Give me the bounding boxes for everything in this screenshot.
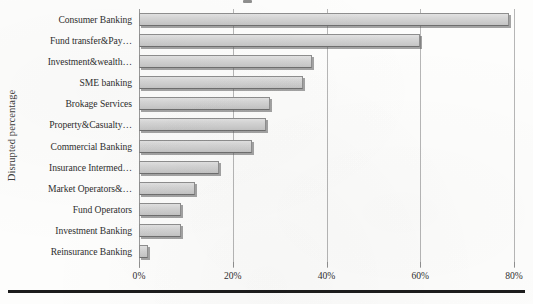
category-label: Investment Banking [55, 225, 132, 236]
category-label: Fund Operators [73, 204, 132, 215]
category-label: Commercial Banking [51, 141, 132, 152]
category-label: Fund transfer&Pay… [50, 35, 132, 46]
bar-series [139, 9, 514, 262]
bar-row [139, 241, 514, 262]
bar-row [139, 220, 514, 241]
bar [139, 13, 509, 26]
category-label-row: Property&Casualty… [22, 114, 136, 135]
category-label-row: Fund transfer&Pay… [22, 30, 136, 51]
bar-row [139, 9, 514, 30]
y-axis-title-text: Disrupted percentage [7, 89, 18, 181]
clipped-title-mark [243, 0, 252, 3]
x-axis-tick-labels: 0%20%40%60%80% [139, 270, 514, 284]
x-tick-label: 20% [224, 270, 242, 281]
x-axis-tickmarks [139, 262, 514, 270]
bar [139, 245, 148, 258]
bar [139, 34, 420, 47]
category-label: SME banking [80, 77, 132, 88]
x-tick-label: 40% [318, 270, 336, 281]
chart-figure: Disrupted percentage Consumer BankingFun… [0, 0, 533, 304]
category-label: Consumer Banking [58, 14, 132, 25]
y-axis-category-labels: Consumer BankingFund transfer&Pay…Invest… [22, 9, 136, 262]
bar [139, 224, 181, 237]
category-label-row: Fund Operators [22, 199, 136, 220]
bar [139, 118, 266, 131]
bar-row [139, 72, 514, 93]
x-tickmark [139, 262, 140, 267]
x-tick-label: 60% [411, 270, 429, 281]
x-tick-label: 0% [133, 270, 146, 281]
category-label: Property&Casualty… [49, 119, 132, 130]
category-label-row: Market Operators&… [22, 178, 136, 199]
bar [139, 76, 303, 89]
category-label-row: Insurance Intermed… [22, 157, 136, 178]
category-label: Reinsurance Banking [51, 246, 132, 257]
gridline [514, 9, 515, 268]
x-tickmark [233, 262, 234, 267]
bar-row [139, 51, 514, 72]
bar [139, 140, 252, 153]
bar-row [139, 93, 514, 114]
bar-row [139, 157, 514, 178]
bottom-rule [8, 290, 525, 293]
plot-area [139, 9, 514, 262]
bar [139, 55, 312, 68]
bar-row [139, 135, 514, 156]
bar [139, 182, 195, 195]
category-label: Insurance Intermed… [49, 162, 132, 173]
x-tick-label: 80% [505, 270, 523, 281]
x-tickmark [327, 262, 328, 267]
category-label: Brokage Services [65, 98, 132, 109]
bar-row [139, 178, 514, 199]
category-label-row: Brokage Services [22, 93, 136, 114]
y-axis-title: Disrupted percentage [2, 0, 22, 270]
category-label-row: Reinsurance Banking [22, 241, 136, 262]
bar-row [139, 114, 514, 135]
category-label-row: SME banking [22, 72, 136, 93]
category-label-row: Commercial Banking [22, 135, 136, 156]
x-tickmark [420, 262, 421, 267]
bar [139, 203, 181, 216]
bar [139, 97, 270, 110]
category-label: Investment&wealth… [48, 56, 132, 67]
category-label-row: Investment Banking [22, 220, 136, 241]
bar [139, 161, 219, 174]
x-tickmark [514, 262, 515, 267]
category-label: Market Operators&… [48, 183, 132, 194]
bar-row [139, 30, 514, 51]
category-label-row: Investment&wealth… [22, 51, 136, 72]
bar-row [139, 199, 514, 220]
category-label-row: Consumer Banking [22, 9, 136, 30]
